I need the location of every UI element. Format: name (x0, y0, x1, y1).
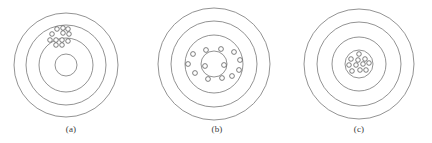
shot-mark-b-7 (203, 64, 208, 69)
target-bullseye-a (55, 54, 77, 76)
shot-mark-c-7 (361, 62, 366, 67)
target-panel-c (304, 9, 414, 119)
shot-mark-a-9 (60, 38, 65, 43)
figure-root: (a) (b) (c) (0, 0, 432, 143)
shot-mark-b-8 (222, 63, 227, 68)
shot-mark-a-6 (67, 32, 72, 37)
shot-mark-a-2 (61, 26, 66, 31)
shot-mark-a-4 (50, 32, 55, 37)
shot-mark-c-8 (367, 61, 372, 66)
shot-mark-b-5 (238, 58, 243, 63)
shot-mark-c-9 (350, 69, 355, 74)
target-ring-b-2 (171, 21, 257, 107)
targets-diagram (0, 0, 432, 143)
target-ring-c-1 (304, 9, 414, 119)
shot-mark-c-4 (363, 57, 368, 62)
target-ring-c-2 (317, 22, 401, 106)
shot-mark-b-3 (232, 50, 237, 55)
shot-mark-c-11 (364, 68, 369, 73)
shot-mark-b-11 (230, 74, 235, 79)
panel-caption-b: (b) (182, 124, 252, 134)
target-ring-c-3 (332, 37, 386, 91)
shot-mark-c-1 (357, 52, 362, 57)
shot-mark-b-4 (191, 52, 196, 57)
target-ring-a-2 (26, 25, 106, 105)
shot-mark-c-5 (347, 63, 352, 68)
shot-mark-a-1 (55, 27, 60, 32)
shot-mark-a-3 (66, 27, 71, 32)
target-panel-a (14, 13, 118, 117)
shot-mark-c-10 (358, 68, 363, 73)
target-ring-b-3 (185, 35, 243, 93)
shot-mark-b-2 (219, 47, 224, 52)
target-ring-b-1 (158, 8, 270, 120)
shot-mark-b-13 (220, 76, 225, 81)
shot-mark-c-3 (356, 58, 361, 63)
shot-mark-b-10 (193, 71, 198, 76)
shot-mark-c-2 (349, 57, 354, 62)
shot-mark-b-12 (206, 77, 211, 82)
shot-mark-a-5 (61, 31, 66, 36)
shot-mark-b-9 (237, 68, 242, 73)
shot-mark-a-8 (54, 38, 59, 43)
shot-mark-b-6 (186, 62, 191, 67)
panel-caption-c: (c) (324, 124, 394, 134)
shot-mark-a-7 (48, 38, 53, 43)
shot-mark-a-11 (54, 43, 59, 48)
target-ring-a-3 (39, 38, 93, 92)
shot-mark-c-6 (354, 63, 359, 68)
target-panel-b (158, 8, 270, 120)
shot-mark-a-10 (66, 39, 71, 44)
shot-mark-a-12 (60, 43, 65, 48)
shot-mark-b-1 (204, 48, 209, 53)
panel-caption-a: (a) (36, 124, 106, 134)
